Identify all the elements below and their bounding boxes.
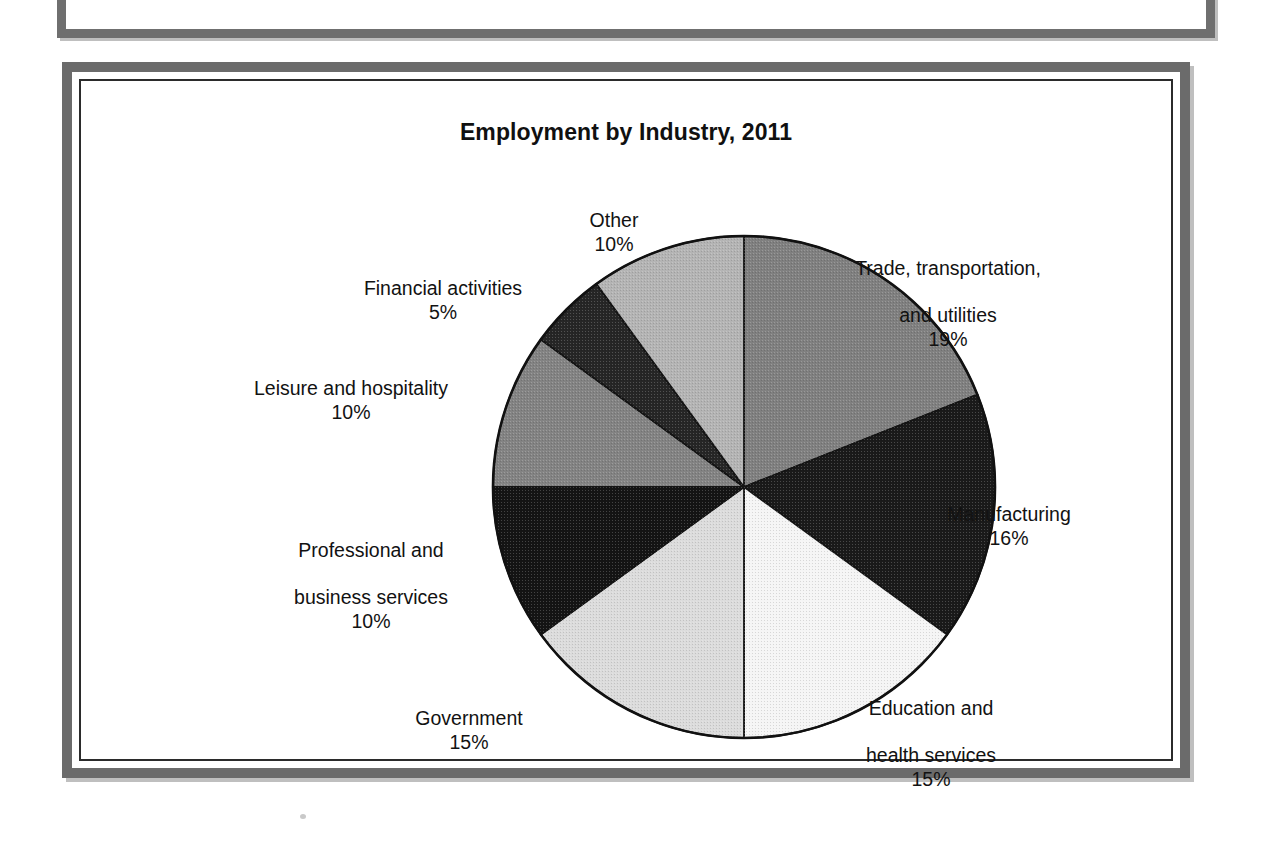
pie-label-education-health-services: Education and health services 15% — [817, 673, 1045, 816]
pie-label-professional-business-services: Professional and business services 10% — [249, 515, 493, 658]
chart-frame: Employment by Industry, 2011 — [62, 62, 1190, 778]
pie-label-line2: and utilities — [899, 304, 997, 326]
page-top-frame-strip — [57, 0, 1215, 38]
pie-label-percent: 19% — [823, 328, 1073, 352]
chart-frame-inner-border: Employment by Industry, 2011 — [79, 79, 1173, 761]
pie-label-trade-transportation-utilities: Trade, transportation, and utilities 19% — [823, 233, 1073, 376]
pie-label-line1: Manufacturing — [947, 503, 1071, 525]
pie-label-government: Government 15% — [369, 683, 569, 778]
pie-label-line2: business services — [294, 586, 448, 608]
pie-label-line1: Education and — [869, 697, 994, 719]
pie-label-line2: health services — [866, 744, 996, 766]
pie-label-leisure-hospitality: Leisure and hospitality 10% — [201, 353, 501, 448]
pie-chart-figure: Employment by Industry, 2011 — [81, 81, 1171, 759]
pie-label-percent: 5% — [317, 301, 569, 325]
scan-artifact-speck — [300, 814, 306, 819]
chart-title: Employment by Industry, 2011 — [81, 119, 1171, 146]
pie-label-line1: Trade, transportation, — [855, 257, 1041, 279]
pie-label-line1: Other — [590, 209, 639, 231]
pie-label-line1: Leisure and hospitality — [254, 377, 448, 399]
pie-label-percent: 10% — [249, 610, 493, 634]
pie-label-percent: 15% — [817, 768, 1045, 792]
pie-label-financial-activities: Financial activities 5% — [317, 253, 569, 348]
pie-label-manufacturing: Manufacturing 16% — [893, 479, 1125, 574]
pie-label-line1: Financial activities — [364, 277, 522, 299]
pie-label-line1: Government — [415, 707, 522, 729]
pie-label-percent: 16% — [893, 527, 1125, 551]
pie-label-line1: Professional and — [298, 539, 443, 561]
pie-label-percent: 10% — [533, 233, 695, 257]
pie-label-percent: 10% — [201, 401, 501, 425]
pie-label-other: Other 10% — [533, 185, 695, 280]
pie-label-percent: 15% — [369, 731, 569, 755]
